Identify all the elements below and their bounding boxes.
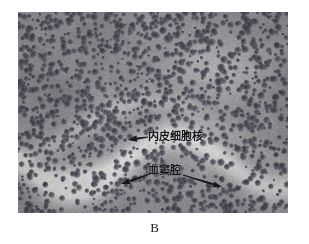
panel-caption-label: B — [0, 220, 309, 235]
tissue-image — [18, 12, 288, 213]
figure-panel-b: 内皮细胞核 血窦腔 B — [0, 0, 309, 244]
histology-micrograph — [18, 12, 288, 213]
label-endothelial-cell-nucleus: 内皮细胞核 — [148, 131, 203, 143]
label-blood-sinusoid-cavity: 血窦腔 — [148, 165, 181, 177]
